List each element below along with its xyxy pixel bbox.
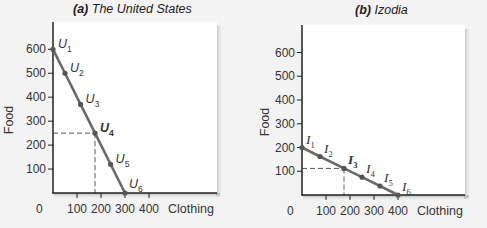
x-tick-label: 400 — [388, 204, 408, 218]
data-point — [78, 102, 83, 107]
data-point — [108, 162, 113, 167]
x-tick-label: 200 — [340, 204, 360, 218]
y-tick-label: 100 — [26, 162, 46, 176]
plot-shadow-right — [464, 29, 471, 199]
x-axis-title: Clothing — [417, 204, 463, 218]
x-axis-title: Clothing — [168, 202, 214, 216]
panel-letter: (b) — [355, 3, 371, 17]
svg-text:(a) The United States: (a) The United States — [73, 2, 192, 16]
y-tick-label: 600 — [26, 42, 46, 56]
panel-title: (b) Izodia — [355, 3, 408, 17]
x-origin-label: 0 — [36, 202, 43, 216]
x-tick-label: 200 — [91, 202, 111, 216]
panel-united-states: (a) The United States 100200300400500600… — [2, 2, 223, 216]
svg-text:(b) Izodia: (b) Izodia — [355, 3, 408, 17]
panel-title-text: The United States — [92, 2, 192, 16]
data-point — [62, 71, 67, 76]
panel-izodia: (b) Izodia 10020030040050060010020030040… — [258, 3, 471, 218]
y-tick-label: 500 — [26, 66, 46, 80]
y-tick-label: 100 — [275, 164, 295, 178]
y-axis-title: Food — [2, 106, 16, 135]
y-tick-label: 200 — [26, 138, 46, 152]
data-point — [299, 145, 304, 150]
y-tick-label: 300 — [275, 117, 295, 131]
plot-shadow-right — [216, 26, 223, 196]
y-tick-label: 400 — [275, 93, 295, 107]
x-origin-label: 0 — [287, 204, 294, 218]
data-point — [92, 131, 97, 136]
data-point — [395, 192, 400, 197]
panel-title: (a) The United States — [73, 2, 192, 16]
data-point — [341, 166, 346, 171]
panel-letter: (a) — [73, 2, 88, 16]
y-tick-label: 300 — [26, 114, 46, 128]
plot-shadow-bottom — [54, 193, 220, 199]
data-point — [377, 183, 382, 188]
y-tick-label: 600 — [275, 46, 295, 60]
data-point — [359, 175, 364, 180]
y-tick-label: 400 — [26, 90, 46, 104]
figure: (a) The United States 100200300400500600… — [0, 0, 487, 228]
data-point — [50, 47, 55, 52]
y-tick-label: 500 — [275, 69, 295, 83]
x-tick-label: 300 — [115, 202, 135, 216]
panel-title-text: Izodia — [374, 3, 407, 17]
plot-shadow-bottom — [303, 195, 469, 201]
y-tick-label: 200 — [275, 141, 295, 155]
plot-area — [53, 22, 217, 193]
x-tick-label: 100 — [316, 204, 336, 218]
x-tick-label: 100 — [67, 202, 87, 216]
data-point — [317, 154, 322, 159]
x-tick-label: 400 — [139, 202, 159, 216]
y-axis-title: Food — [258, 108, 272, 137]
x-tick-label: 300 — [364, 204, 384, 218]
data-point — [122, 190, 127, 195]
